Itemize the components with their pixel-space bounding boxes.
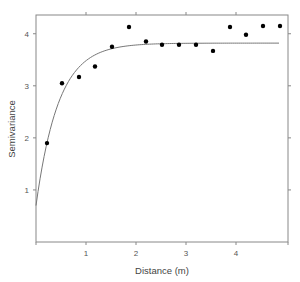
plot-frame	[36, 15, 288, 242]
data-point	[127, 25, 131, 29]
data-point	[194, 42, 198, 46]
data-point	[60, 81, 64, 85]
x-tick-label: 1	[84, 249, 89, 258]
data-point	[77, 75, 81, 79]
data-point	[177, 42, 181, 46]
data-point	[110, 45, 114, 49]
y-tick-label: 3	[25, 82, 30, 91]
y-tick-label: 4	[25, 30, 30, 39]
y-tick-label: 1	[25, 186, 30, 195]
x-tick-label: 3	[184, 249, 189, 258]
y-axis-label: Semivariance	[6, 100, 17, 158]
x-tick-label: 2	[134, 249, 139, 258]
data-point	[228, 25, 232, 29]
fitted-model-curve	[36, 43, 279, 205]
data-points	[45, 24, 282, 146]
data-point	[93, 64, 97, 68]
data-point	[45, 141, 49, 145]
data-point	[160, 42, 164, 46]
x-axis-label: Distance (m)	[135, 265, 189, 276]
x-tick-label: 4	[234, 249, 239, 258]
data-point	[244, 33, 248, 37]
y-axis-ticks: 1234	[25, 30, 291, 195]
data-point	[211, 49, 215, 53]
data-point	[278, 24, 282, 28]
plot-border	[36, 15, 288, 242]
y-tick-label: 2	[25, 134, 30, 143]
data-point	[144, 39, 148, 43]
data-point	[261, 24, 265, 28]
x-axis-ticks: 1234	[36, 12, 288, 258]
semivariogram-chart: 1234 1234 Distance (m) Semivariance	[0, 0, 300, 282]
